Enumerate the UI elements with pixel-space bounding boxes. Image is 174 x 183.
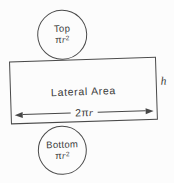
dimension-line-right [97,110,145,113]
bottom-circle-formula: πr2 [55,150,70,161]
bottom-circle-label: Bottom [46,139,78,151]
arrowhead-left-icon [15,112,23,118]
width-dimension-arrow: 2πr [14,104,153,121]
height-label: h [161,75,167,87]
bottom-formula-exponent: 2 [66,150,70,157]
top-formula-exponent: 2 [66,34,70,41]
dimension-line-left [23,112,71,115]
arrowhead-right-icon [146,107,154,113]
width-dimension-label: 2πr [71,106,97,119]
cylinder-net-figure: Lateral Area 2πr Top πr2 Bottom πr2 h [0,0,174,183]
top-circle-formula: πr2 [55,35,70,46]
bottom-circle: Bottom πr2 [37,125,88,176]
diagram-canvas: Lateral Area 2πr Top πr2 Bottom πr2 h [0,0,174,183]
width-radius-variable: r [89,107,94,118]
lateral-area-label: Lateral Area [11,83,156,100]
lateral-area-rectangle: Lateral Area 2πr [9,57,158,125]
width-coefficient: 2π [75,106,89,118]
top-circle: Top πr2 [36,9,88,61]
